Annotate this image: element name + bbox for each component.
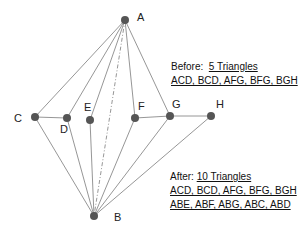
- point-C: [31, 113, 39, 121]
- edge-BE: [90, 120, 94, 216]
- edge-AB-dashed: [94, 20, 125, 216]
- label-A: A: [137, 12, 144, 23]
- label-B: B: [114, 212, 121, 223]
- edge-AG: [125, 20, 170, 116]
- before-heading: Before: 5 Triangles: [171, 60, 258, 73]
- label-F: F: [138, 101, 145, 112]
- after-heading: After: 10 Triangles: [170, 170, 251, 183]
- triangle-diagram: A B C D E F G H Before: 5 Triangles ACD,…: [0, 0, 302, 229]
- edge-BF: [94, 118, 135, 216]
- after-list-2: ABE, ABF, ABG, ABC, ABD: [170, 198, 291, 211]
- before-count: 5 Triangles: [209, 61, 258, 72]
- point-B: [90, 212, 98, 220]
- point-D: [63, 114, 71, 122]
- after-prefix: After:: [170, 171, 194, 182]
- edge-AC: [35, 20, 125, 117]
- label-C: C: [14, 113, 22, 124]
- edge-BG: [94, 116, 170, 216]
- label-D: D: [60, 124, 68, 135]
- point-G: [166, 112, 174, 120]
- edge-AF: [125, 20, 135, 118]
- edge-BD: [67, 118, 94, 216]
- point-E: [86, 116, 94, 124]
- label-E: E: [84, 102, 91, 113]
- label-G: G: [172, 99, 181, 110]
- before-prefix: Before:: [171, 61, 203, 72]
- edge-CD: [35, 117, 67, 118]
- label-H: H: [216, 99, 224, 110]
- point-A: [121, 16, 129, 24]
- after-list-1: ACD, BCD, AFG, BFG, BGH: [170, 184, 297, 197]
- before-list: ACD, BCD, AFG, BFG, BGH: [171, 74, 298, 87]
- edge-FG: [135, 116, 170, 118]
- after-count: 10 Triangles: [197, 171, 251, 182]
- point-H: [207, 112, 215, 120]
- point-F: [131, 114, 139, 122]
